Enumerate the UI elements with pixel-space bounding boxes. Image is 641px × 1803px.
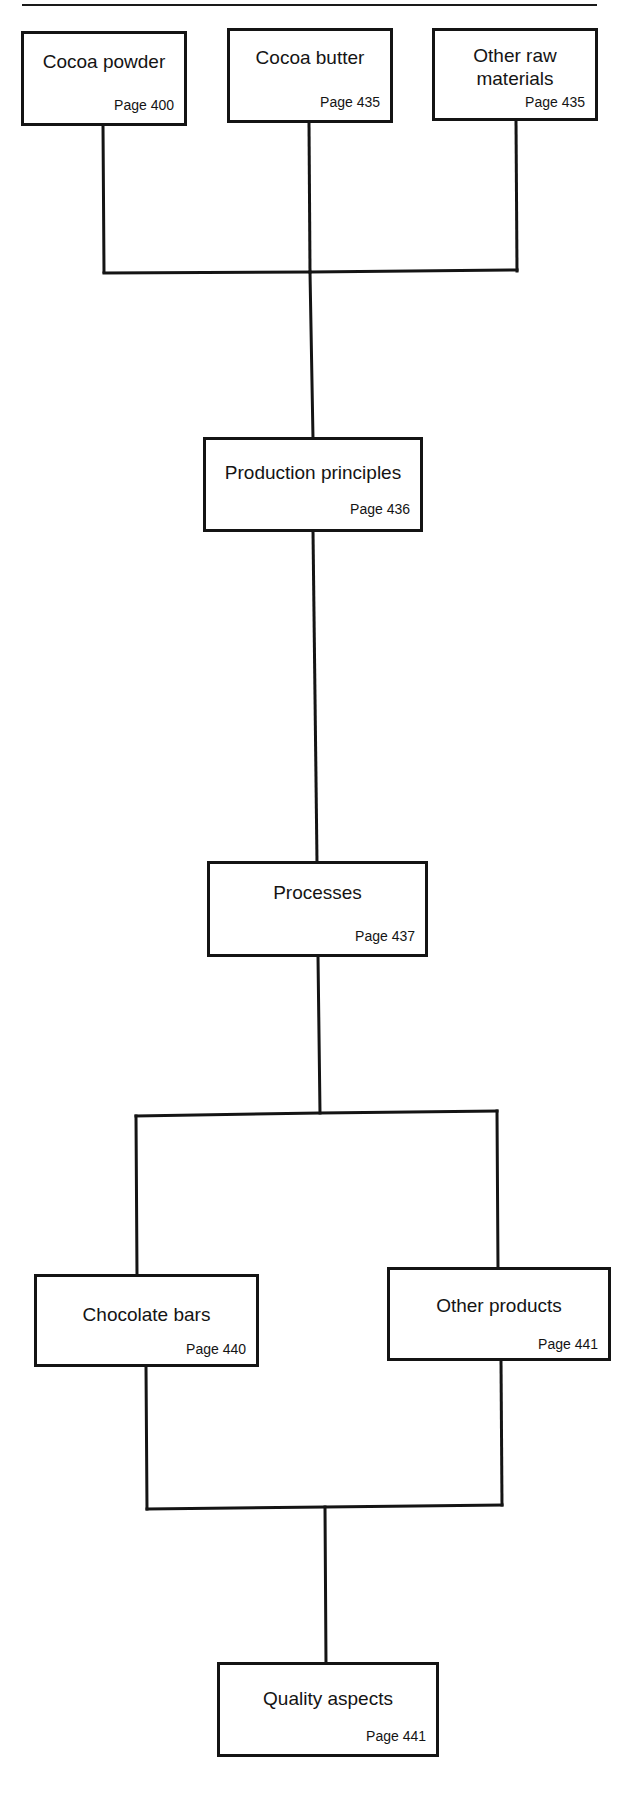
node-title: Quality aspects: [220, 1687, 436, 1710]
node-title: Other products: [390, 1294, 608, 1317]
connector-other-raw: [516, 120, 517, 271]
node-title: Chocolate bars: [37, 1303, 256, 1326]
connector-cocoa-powder: [103, 125, 104, 272]
node-chocolate-bars: Chocolate bars Page 440: [34, 1274, 259, 1367]
node-page-ref: Page 435: [525, 94, 585, 110]
node-page-ref: Page 441: [366, 1728, 426, 1744]
node-title: Other raw materials: [435, 44, 595, 90]
node-title-line: Other raw: [435, 44, 595, 67]
connector-processes-split: [318, 956, 320, 1113]
connector-other-products-join: [501, 1360, 502, 1505]
connector-to-production: [310, 272, 313, 438]
connector-to-quality: [325, 1507, 326, 1663]
node-title-line: materials: [435, 67, 595, 90]
node-page-ref: Page 436: [350, 501, 410, 517]
node-title: Cocoa powder: [24, 50, 184, 73]
node-page-ref: Page 400: [114, 97, 174, 113]
node-title: Cocoa butter: [230, 46, 390, 69]
node-title: Production principles: [206, 461, 420, 484]
node-page-ref: Page 441: [538, 1336, 598, 1352]
node-production-principles: Production principles Page 436: [203, 437, 423, 532]
node-processes: Processes Page 437: [207, 861, 428, 957]
node-quality-aspects: Quality aspects Page 441: [217, 1662, 439, 1757]
connector-cocoa-butter: [309, 122, 310, 272]
node-title: Processes: [210, 881, 425, 904]
connector-to-other-products: [497, 1111, 498, 1268]
node-page-ref: Page 437: [355, 928, 415, 944]
connector-to-chocolate-bars: [136, 1116, 137, 1275]
connector-chocolate-bars-join: [146, 1366, 147, 1509]
node-other-products: Other products Page 441: [387, 1267, 611, 1361]
node-cocoa-butter: Cocoa butter Page 435: [227, 28, 393, 123]
node-cocoa-powder: Cocoa powder Page 400: [21, 31, 187, 126]
node-other-raw-materials: Other raw materials Page 435: [432, 28, 598, 121]
split-products: [136, 1111, 497, 1116]
node-page-ref: Page 440: [186, 1341, 246, 1357]
node-page-ref: Page 435: [320, 94, 380, 110]
connector-production-processes: [313, 531, 317, 862]
